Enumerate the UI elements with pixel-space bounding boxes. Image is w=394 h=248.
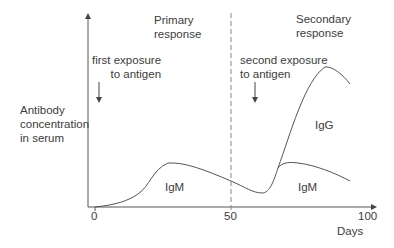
y-axis-label: Antibody concentration in serum bbox=[20, 103, 89, 145]
x-tick-label-0: 0 bbox=[91, 209, 97, 223]
igm-primary-curve bbox=[95, 163, 278, 207]
secondary-response-label: Secondary response bbox=[296, 12, 351, 40]
x-axis-label: Days bbox=[337, 224, 363, 238]
primary-line-2: response bbox=[154, 27, 201, 41]
second-exposure-line-2: to antigen bbox=[240, 67, 328, 81]
y-axis-line-1: Antibody bbox=[20, 103, 89, 117]
x-tick-label-50: 50 bbox=[224, 209, 237, 223]
primary-line-1: Primary bbox=[154, 13, 201, 27]
primary-response-label: Primary response bbox=[154, 13, 201, 41]
igm-secondary-curve bbox=[278, 163, 350, 181]
secondary-line-1: Secondary bbox=[296, 12, 351, 26]
second-exposure-label: second exposure to antigen bbox=[240, 53, 328, 81]
y-axis-line-3: in serum bbox=[20, 131, 89, 145]
first-exposure-label: first exposure to antigen bbox=[92, 53, 161, 81]
igm-primary-label: IgM bbox=[165, 180, 184, 194]
igm-secondary-label: IgM bbox=[298, 180, 317, 194]
igg-label: IgG bbox=[315, 118, 334, 132]
x-tick-label-100: 100 bbox=[358, 209, 377, 223]
first-exposure-line-2: to antigen bbox=[92, 67, 161, 81]
second-exposure-line-1: second exposure bbox=[240, 53, 328, 67]
secondary-line-2: response bbox=[296, 26, 351, 40]
y-axis-line-2: concentration bbox=[20, 117, 89, 131]
igg-curve bbox=[278, 67, 350, 168]
first-exposure-line-1: first exposure bbox=[92, 53, 161, 67]
